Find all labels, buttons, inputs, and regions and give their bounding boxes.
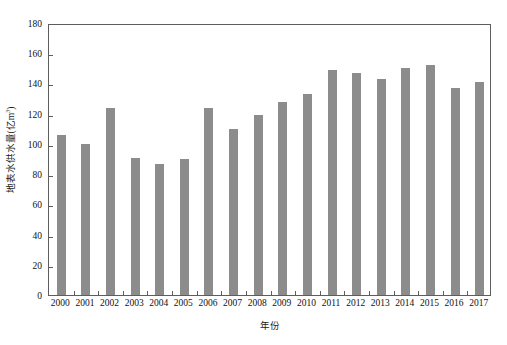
- y-axis-tick-mark: [49, 85, 53, 86]
- x-axis-tick-label: 2014: [395, 298, 414, 308]
- y-axis-tick-label: 180: [28, 19, 42, 29]
- x-axis-tick-mark: [74, 291, 75, 295]
- x-axis-tick-label: 2000: [51, 298, 70, 308]
- bar: [475, 82, 484, 295]
- bar: [328, 70, 337, 295]
- x-axis-tick-mark: [147, 291, 148, 295]
- x-axis-title: 年份: [48, 318, 491, 332]
- bar: [155, 164, 164, 295]
- x-axis-tick-label: 2010: [297, 298, 316, 308]
- bar: [426, 65, 435, 295]
- x-axis-tick-label: 2002: [100, 298, 119, 308]
- x-axis-tick-mark: [98, 291, 99, 295]
- x-axis-tick-mark: [443, 291, 444, 295]
- y-axis-tick-mark: [49, 146, 53, 147]
- bar: [401, 68, 410, 295]
- bar: [106, 108, 115, 295]
- bar: [451, 88, 460, 295]
- y-axis-tick-label: 100: [28, 140, 42, 150]
- x-axis-tick-labels: 2000200120022003200420052006200720082009…: [48, 298, 491, 314]
- x-axis-tick-mark: [418, 291, 419, 295]
- y-axis-tick-label: 20: [33, 261, 43, 271]
- bar: [352, 73, 361, 295]
- x-axis-tick-mark: [344, 291, 345, 295]
- x-axis-tick-mark: [295, 291, 296, 295]
- bar: [180, 159, 189, 295]
- y-axis-title-superscript: 3: [4, 110, 11, 113]
- x-axis-tick-mark: [467, 291, 468, 295]
- x-axis-tick-mark: [197, 291, 198, 295]
- y-axis-tick-label: 0: [37, 291, 42, 301]
- y-axis-tick-label: 140: [28, 79, 42, 89]
- x-axis-tick-mark: [369, 291, 370, 295]
- bar: [254, 115, 263, 295]
- y-axis-tick-mark: [49, 176, 53, 177]
- y-axis-tick-mark: [49, 206, 53, 207]
- bar: [229, 129, 238, 295]
- x-axis-tick-mark: [221, 291, 222, 295]
- y-axis-tick-label: 40: [33, 231, 43, 241]
- bar: [303, 94, 312, 295]
- x-axis-tick-label: 2011: [322, 298, 341, 308]
- x-axis-tick-label: 2009: [272, 298, 291, 308]
- x-axis-tick-label: 2004: [149, 298, 168, 308]
- x-axis-tick-label: 2001: [75, 298, 94, 308]
- x-axis-tick-label: 2003: [125, 298, 144, 308]
- bar: [131, 158, 140, 296]
- y-axis-tick-mark: [49, 116, 53, 117]
- bar: [278, 102, 287, 295]
- y-axis-tick-mark: [49, 267, 53, 268]
- y-axis-tick-labels: 020406080100120140160180: [18, 24, 46, 296]
- y-axis-title-text: 地表水供水量(亿m: [6, 113, 16, 194]
- y-axis-title: 地表水供水量(亿m3): [0, 0, 20, 300]
- bar-series: [49, 25, 490, 295]
- x-axis-tick-label: 2005: [174, 298, 193, 308]
- x-axis-tick-mark: [246, 291, 247, 295]
- x-axis-tick-label: 2008: [248, 298, 267, 308]
- x-axis-tick-label: 2007: [223, 298, 242, 308]
- y-axis-tick-label: 160: [28, 49, 42, 59]
- y-axis-tick-label: 80: [33, 170, 43, 180]
- plot-area: [48, 24, 491, 296]
- y-axis-tick-label: 60: [33, 200, 43, 210]
- x-axis-tick-label: 2012: [346, 298, 365, 308]
- x-axis-tick-mark: [320, 291, 321, 295]
- bar: [204, 108, 213, 295]
- chart-figure: 地表水供水量(亿m3) 020406080100120140160180 200…: [0, 0, 507, 345]
- y-axis-tick-mark: [49, 237, 53, 238]
- x-axis-tick-label: 2013: [371, 298, 390, 308]
- bar: [81, 144, 90, 295]
- x-axis-tick-label: 2015: [420, 298, 439, 308]
- x-axis-tick-label: 2016: [445, 298, 464, 308]
- x-axis-tick-mark: [394, 291, 395, 295]
- x-axis-tick-label: 2017: [469, 298, 488, 308]
- x-axis-tick-label: 2006: [198, 298, 217, 308]
- y-axis-tick-mark: [49, 55, 53, 56]
- x-axis-tick-mark: [271, 291, 272, 295]
- x-axis-tick-mark: [123, 291, 124, 295]
- bar: [57, 135, 66, 295]
- bar: [377, 79, 386, 295]
- x-axis-tick-mark: [172, 291, 173, 295]
- y-axis-tick-label: 120: [28, 110, 42, 120]
- y-axis-title-tail: ): [6, 107, 16, 110]
